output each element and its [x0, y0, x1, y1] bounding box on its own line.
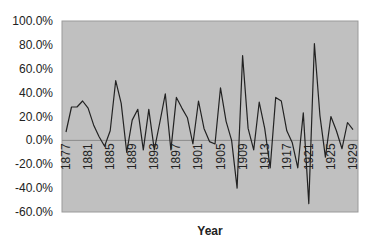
x-tick-label: 1917 [280, 143, 294, 170]
y-tick-label: -60.0% [15, 205, 53, 219]
y-tick-label: 20.0% [19, 110, 53, 124]
x-tick-label: 1885 [103, 143, 117, 170]
y-axis-ticks: 100.0%80.0%60.0%40.0%20.0%0.0%-20.0%-40.… [12, 14, 53, 219]
x-tick-label: 1881 [81, 143, 95, 170]
x-tick-label: 1929 [346, 143, 360, 170]
line-chart: 100.0%80.0%60.0%40.0%20.0%0.0%-20.0%-40.… [0, 0, 377, 244]
y-tick-label: 60.0% [19, 62, 53, 76]
y-tick-label: 80.0% [19, 38, 53, 52]
y-tick-label: 0.0% [26, 133, 54, 147]
y-tick-label: -20.0% [15, 157, 53, 171]
y-tick-label: -40.0% [15, 181, 53, 195]
x-tick-label: 1921 [302, 143, 316, 170]
y-tick-label: 100.0% [12, 14, 53, 28]
y-tick-label: 40.0% [19, 86, 53, 100]
x-tick-label: 1905 [214, 143, 228, 170]
x-tick-label: 1901 [191, 143, 205, 170]
x-tick-label: 1877 [59, 143, 73, 170]
x-axis-title: Year [197, 224, 223, 238]
